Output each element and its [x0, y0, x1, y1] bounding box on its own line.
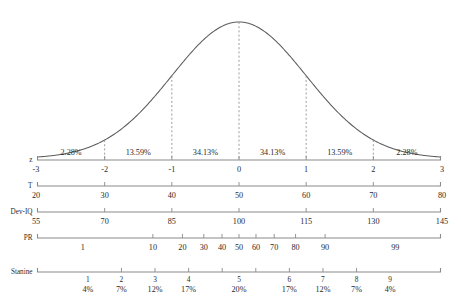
scale-row-label: Dev-IQ — [11, 208, 34, 216]
scale-tick-label: 60 — [302, 191, 310, 200]
scale-tick-label: 20 — [178, 243, 186, 252]
scale-tick-label: 40 — [218, 243, 226, 252]
region-percentage-label: 13.59% — [126, 148, 151, 157]
scale-tick-label: 70 — [270, 243, 278, 252]
stanine-number-label: 1 — [86, 275, 90, 284]
chart-svg: 2.28%13.59%34.13%34.13%13.59%2.28% -3-2-… — [0, 0, 461, 301]
region-percentage-label: 2.28% — [396, 148, 417, 157]
scale-tick-label: -3 — [33, 165, 40, 174]
scale-tick-label: 40 — [168, 191, 176, 200]
scale-row-label: PR — [24, 234, 33, 242]
scale-tick-label: 20 — [32, 191, 40, 200]
stanine-percent-label: 17% — [181, 285, 196, 294]
stanine-percent-label: 4% — [82, 285, 93, 294]
scale-tick-label: 70 — [101, 217, 109, 226]
scale-tick-label: 145 — [436, 217, 448, 226]
stanine-percent-label: 12% — [148, 285, 163, 294]
stanine-percent-label: 4% — [385, 285, 396, 294]
scale-tick-label: -2 — [101, 165, 108, 174]
scale-tick-label: 1 — [304, 165, 308, 174]
scale-tick-label: 50 — [235, 243, 243, 252]
scale-tick-label: 115 — [300, 217, 312, 226]
scale-tick-label: 50 — [235, 191, 243, 200]
stanine-percent-label: 7% — [116, 285, 127, 294]
stanine-percent-label: 12% — [315, 285, 330, 294]
stanine-percent-label: 17% — [282, 285, 297, 294]
scale-tick-label: 60 — [252, 243, 260, 252]
stanine-number-label: 7 — [321, 275, 325, 284]
scale-tick-label: 2 — [371, 165, 375, 174]
scale-row-label: z — [29, 156, 32, 164]
normal-distribution-chart: 2.28%13.59%34.13%34.13%13.59%2.28% -3-2-… — [0, 0, 461, 301]
scale-tick-label: 80 — [438, 191, 446, 200]
region-percentage-label: 34.13% — [260, 148, 285, 157]
scale-tick-label: 70 — [369, 191, 377, 200]
stanine-number-label: 2 — [120, 275, 124, 284]
scale-tick-label: 99 — [391, 243, 399, 252]
scale-tick-label: 3 — [440, 165, 444, 174]
region-percentage-label: 13.59% — [327, 148, 352, 157]
scale-tick-label: 0 — [237, 165, 241, 174]
scale-tick-label: 85 — [168, 217, 176, 226]
stanine-row-label: Stanine — [11, 268, 33, 276]
scale-tick-label: 55 — [32, 217, 40, 226]
scale-tick-label: 90 — [321, 243, 329, 252]
scale-tick-label: 80 — [291, 243, 299, 252]
stanine-percent-label: 7% — [351, 285, 362, 294]
scale-tick-label: -1 — [168, 165, 175, 174]
scale-tick-label: 1 — [81, 243, 85, 252]
scale-tick-label: 30 — [101, 191, 109, 200]
scale-row-z: -3-2-10123z — [29, 156, 444, 174]
stanine-axis-line — [38, 268, 441, 272]
sd-dashed-lines-layer — [105, 22, 374, 159]
stanine-percent-label: 20% — [231, 285, 246, 294]
stanine-number-label: 9 — [388, 275, 392, 284]
scale-row-dev-iq: 557085100115130145Dev-IQ — [11, 208, 449, 226]
stanine-number-label: 8 — [355, 275, 359, 284]
scale-tick-label: 130 — [367, 217, 379, 226]
scale-tick-label: 30 — [200, 243, 208, 252]
stanine-number-label: 3 — [153, 275, 157, 284]
score-scales-layer: -3-2-10123z20304050607080T55708510011513… — [11, 156, 449, 252]
scale-tick-label: 10 — [149, 243, 157, 252]
region-percentage-label: 2.28% — [61, 148, 82, 157]
scale-row-pr: 110203040506070809099PR — [24, 234, 441, 252]
stanine-number-label: 4 — [187, 275, 191, 284]
stanine-number-label: 5 — [237, 275, 241, 284]
stanine-number-label: 6 — [288, 275, 292, 284]
scale-row-t: 20304050607080T — [28, 182, 446, 200]
region-percentage-label: 34.13% — [193, 148, 218, 157]
stanine-scale-layer: 14%27%312%417%520%617%712%87%94%Stanine — [11, 268, 441, 294]
scale-row-label: T — [28, 182, 33, 190]
scale-tick-label: 100 — [233, 217, 245, 226]
